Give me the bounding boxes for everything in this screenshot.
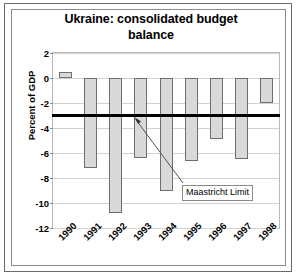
chart-title: Ukraine: consolidated budget balance [26,11,276,43]
y-tick-label: -4 [41,123,49,134]
x-axis-tick-labels: 199019911992199319941995199619971998 [52,229,280,275]
annotation-arrow-icon [53,53,279,228]
y-tick-label: -6 [41,148,49,159]
y-tick-label: -2 [41,98,49,109]
chart-title-line-1: Ukraine: consolidated budget [26,11,276,27]
y-tick-label: -12 [35,223,49,234]
y-tick-label: 0 [44,73,49,84]
chart-title-line-2: balance [26,27,276,43]
y-axis-title: Percent of GDP [26,46,37,166]
y-tick-label: 2 [44,48,49,59]
chart-screenshot: Ukraine: consolidated budget balance Per… [0,0,296,278]
y-tick-label: -8 [41,173,49,184]
plot-area: 20-2-4-6-8-10-12Maastricht Limit [52,52,280,229]
y-tick-label: -10 [35,198,49,209]
